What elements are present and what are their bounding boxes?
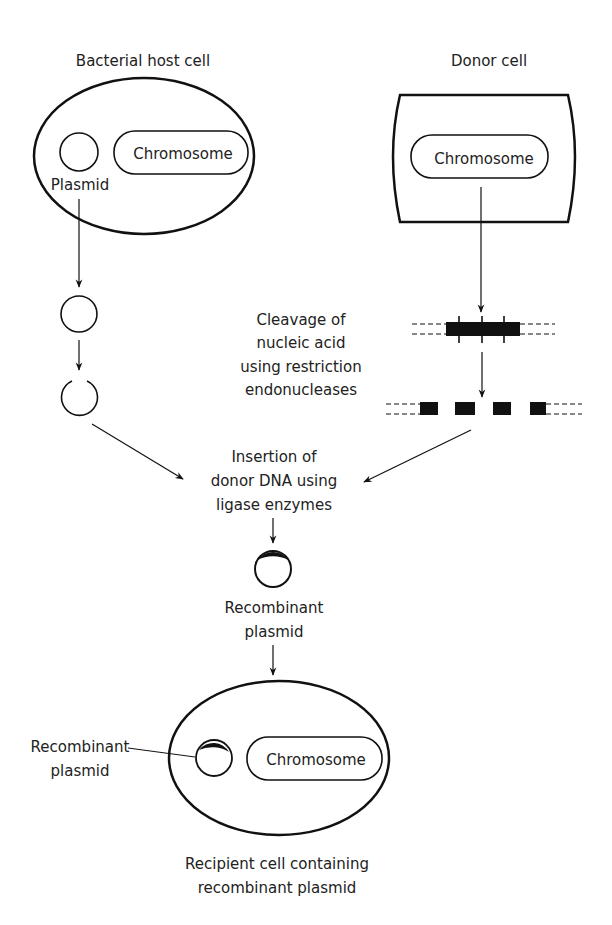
host-plasmid-label: Plasmid <box>51 176 110 194</box>
svg-text:endonucleases: endonucleases <box>245 381 357 399</box>
svg-text:donor DNA using: donor DNA using <box>211 472 338 490</box>
genetic-engineering-diagram: Bacterial host cell Plasmid Chromosome D… <box>0 0 612 925</box>
donor-dna-strand-icon <box>412 316 555 343</box>
host-plasmid-icon <box>60 133 98 171</box>
host-chromosome-label: Chromosome <box>133 145 233 163</box>
recipient-plasmid-label-2: plasmid <box>51 762 110 780</box>
insertion-step-label: Insertion of donor DNA using ligase enzy… <box>211 448 338 514</box>
host-cell-title: Bacterial host cell <box>76 52 210 70</box>
svg-text:Insertion of: Insertion of <box>231 448 317 466</box>
recipient-recombinant-plasmid-icon <box>196 740 232 776</box>
donor-cell-title: Donor cell <box>451 52 527 70</box>
cut-plasmid-icon <box>62 381 98 415</box>
recipient-chromosome-label: Chromosome <box>266 751 366 769</box>
svg-text:ligase enzymes: ligase enzymes <box>216 496 332 514</box>
donor-chromosome-label: Chromosome <box>434 150 534 168</box>
isolated-plasmid-icon <box>61 296 97 332</box>
recipient-caption-2: recombinant plasmid <box>198 879 357 897</box>
recipient-plasmid-leader-line <box>128 748 195 757</box>
recombinant-plasmid-label-1: Recombinant <box>225 599 324 617</box>
cleavage-step-label: Cleavage of nucleic acid using restricti… <box>240 311 361 399</box>
recombinant-plasmid-icon <box>255 551 291 587</box>
arrow-plasmid-to-insertion <box>92 424 183 479</box>
svg-text:Cleavage of: Cleavage of <box>256 311 346 329</box>
svg-text:using restriction: using restriction <box>240 358 361 376</box>
recombinant-plasmid-label-2: plasmid <box>245 623 304 641</box>
recipient-caption-1: Recipient cell containing <box>185 855 369 873</box>
arrow-dna-to-insertion <box>364 430 471 482</box>
recipient-plasmid-label-1: Recombinant <box>31 738 130 756</box>
cleaved-dna-fragments-icon <box>386 402 582 415</box>
svg-text:nucleic acid: nucleic acid <box>257 334 346 352</box>
